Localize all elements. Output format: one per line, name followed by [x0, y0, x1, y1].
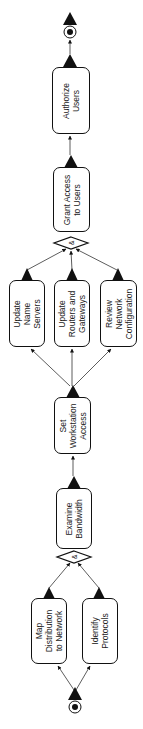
edge-routers-join2 — [71, 251, 72, 270]
node-label: Review Network Configuration — [104, 288, 134, 339]
join-diamond-1: & — [57, 551, 91, 563]
end-arrowhead — [63, 12, 77, 25]
node-label: Update Routers and Gateways — [57, 290, 87, 336]
node-grant-access: Grant Access to Users — [53, 167, 90, 232]
node-label: Authorize Users — [61, 83, 81, 119]
flow-arrowhead — [63, 54, 77, 67]
edge-start-map — [58, 666, 74, 690]
join-diamond-2: & — [54, 237, 88, 249]
edge-map-join1 — [49, 563, 70, 588]
node-update-name-servers: Update Name Servers — [9, 280, 45, 347]
end-node — [64, 26, 76, 38]
node-identify-protocols: Identify Protocols — [82, 598, 118, 664]
node-set-workstation-access: Set Workstation Access — [54, 397, 91, 454]
node-map-distribution: Map Distribution to Network — [31, 598, 67, 664]
edge-workstation-review — [74, 349, 111, 386]
node-label: Identify Protocols — [90, 613, 110, 648]
edge-identify-join1 — [78, 563, 99, 588]
node-review-network-config: Review Network Configuration — [100, 280, 137, 347]
node-authorize-users: Authorize Users — [52, 67, 90, 134]
node-label: Update Name Servers — [12, 299, 42, 328]
start-node — [69, 701, 81, 713]
edge-review-join2 — [76, 249, 117, 270]
node-label: Grant Access to Users — [62, 174, 82, 225]
edge-nameservers-join2 — [27, 249, 66, 270]
flow-arrowhead — [68, 687, 82, 700]
svg-text:&: & — [71, 554, 78, 559]
node-label: Set Workstation Access — [58, 403, 88, 448]
svg-text:&: & — [68, 240, 75, 245]
node-examine-bandwidth: Examine Bandwidth — [56, 488, 92, 549]
node-update-routers: Update Routers and Gateways — [54, 280, 90, 347]
node-label: Map Distribution to Network — [34, 610, 64, 653]
node-label: Examine Bandwidth — [64, 499, 84, 539]
edge-workstation-nameservers — [31, 349, 70, 386]
edge-start-identify — [76, 666, 90, 690]
